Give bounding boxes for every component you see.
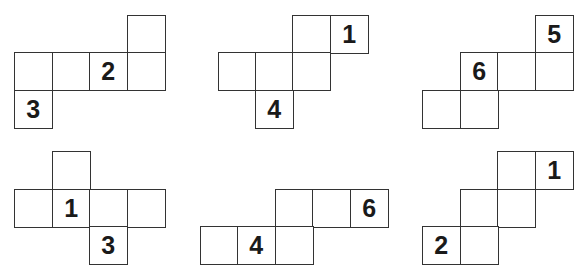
net-face xyxy=(14,189,53,228)
net-face-numbered: 1 xyxy=(535,151,574,190)
net-face xyxy=(255,52,294,91)
net-face-numbered: 2 xyxy=(422,226,461,265)
net-face xyxy=(218,52,257,91)
net-face xyxy=(460,189,499,228)
net-face xyxy=(497,52,536,91)
net-face-numbered: 4 xyxy=(255,90,294,129)
net-face xyxy=(460,226,499,265)
net-face xyxy=(127,52,166,91)
net-face-numbered: 1 xyxy=(330,15,369,54)
net-face xyxy=(312,189,351,228)
net-face xyxy=(460,90,499,129)
net-face xyxy=(89,189,128,228)
net-face xyxy=(52,52,91,91)
net-face-numbered: 4 xyxy=(237,226,276,265)
net-face-numbered: 5 xyxy=(535,15,574,54)
net-face xyxy=(14,52,53,91)
net-face xyxy=(275,189,314,228)
net-face xyxy=(52,151,91,190)
net-face-numbered: 3 xyxy=(14,90,53,129)
net-face xyxy=(292,15,331,54)
net-face xyxy=(292,52,331,91)
net-face xyxy=(127,15,166,54)
net-face-numbered: 1 xyxy=(52,189,91,228)
net-face xyxy=(275,226,314,265)
net-face xyxy=(127,189,166,228)
net-face xyxy=(497,151,536,190)
net-face xyxy=(535,52,574,91)
net-face xyxy=(422,90,461,129)
net-face-numbered: 6 xyxy=(460,52,499,91)
net-face-numbered: 3 xyxy=(89,226,128,265)
net-face-numbered: 6 xyxy=(350,189,389,228)
net-face-numbered: 2 xyxy=(89,52,128,91)
net-face xyxy=(497,189,536,228)
net-face xyxy=(200,226,239,265)
